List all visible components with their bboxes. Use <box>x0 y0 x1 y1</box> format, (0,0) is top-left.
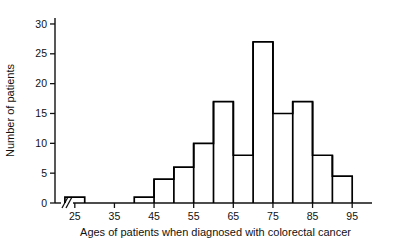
histogram-plot: 0510152025302535455565758595Ages of pati… <box>0 0 394 248</box>
x-tick-label-85: 85 <box>307 210 319 222</box>
y-tick-label-5: 5 <box>41 167 47 179</box>
x-tick-label-95: 95 <box>346 210 358 222</box>
x-tick-label-65: 65 <box>227 210 239 222</box>
x-tick-label-45: 45 <box>148 210 160 222</box>
y-tick-label-25: 25 <box>35 47 47 59</box>
x-tick-label-25: 25 <box>69 210 81 222</box>
x-tick-label-75: 75 <box>267 210 279 222</box>
y-axis-title: Number of patients <box>4 64 16 157</box>
x-axis-title: Ages of patients when diagnosed with col… <box>80 226 351 238</box>
y-tick-label-20: 20 <box>35 77 47 89</box>
y-tick-label-0: 0 <box>41 197 47 209</box>
y-tick-label-10: 10 <box>35 137 47 149</box>
x-tick-label-35: 35 <box>109 210 121 222</box>
histogram-bar-run-1 <box>134 42 352 203</box>
y-tick-label-30: 30 <box>35 18 47 30</box>
histogram-figure: 0510152025302535455565758595Ages of pati… <box>0 0 394 248</box>
y-tick-label-15: 15 <box>35 107 47 119</box>
x-tick-label-55: 55 <box>188 210 200 222</box>
